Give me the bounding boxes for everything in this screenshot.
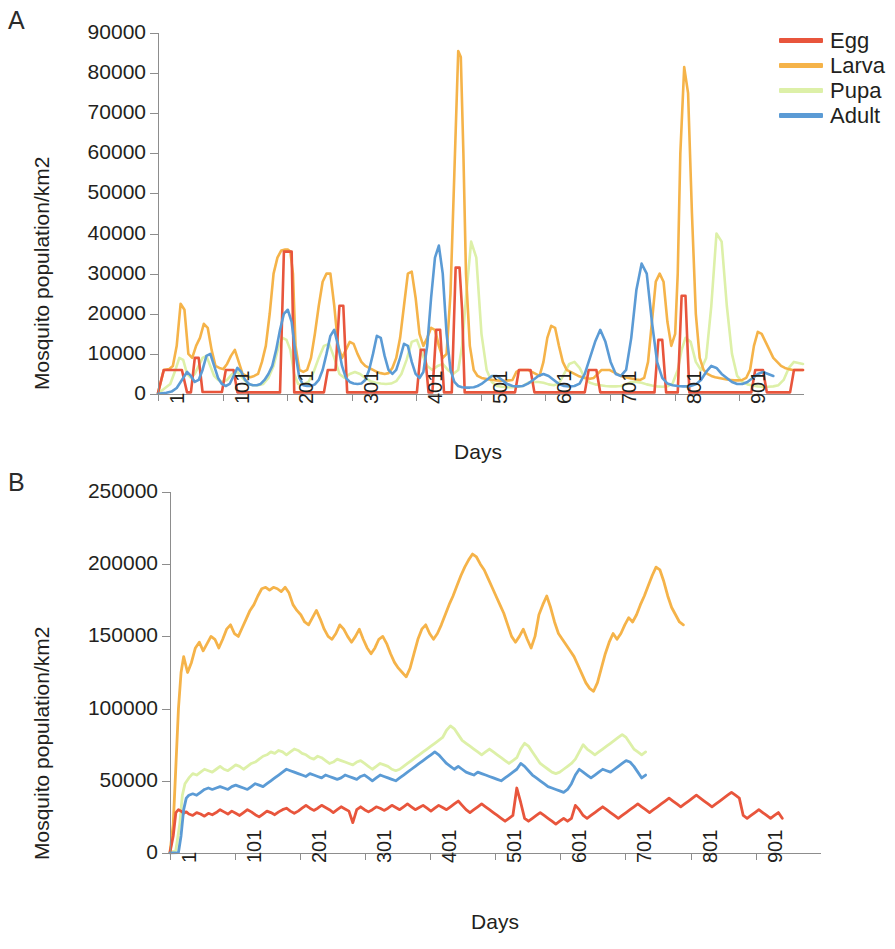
panel-b-y-axis-line	[170, 492, 171, 854]
x-tick-mark	[495, 853, 496, 860]
y-tick-label: 0	[8, 381, 146, 405]
y-tick-mark	[162, 853, 170, 854]
y-tick-mark	[150, 153, 158, 154]
y-tick-label: 200000	[20, 551, 158, 575]
x-tick-label: 701	[618, 371, 641, 404]
x-tick-mark	[170, 853, 171, 860]
x-tick-mark	[756, 853, 757, 860]
x-tick-label: 801	[683, 371, 706, 404]
x-tick-label: 1	[178, 852, 201, 863]
panel-a: A Mosquito population/km2 01000020000300…	[0, 0, 895, 474]
legend-label: Adult	[830, 103, 880, 128]
y-tick-mark	[150, 193, 158, 194]
y-tick-mark	[162, 636, 170, 637]
x-tick-mark	[481, 394, 482, 401]
y-tick-label: 50000	[20, 768, 158, 792]
y-tick-label: 80000	[8, 60, 146, 84]
y-tick-label: 60000	[8, 140, 146, 164]
panel-b-x-axis-title: Days	[375, 910, 615, 934]
legend-swatch-pupa	[779, 88, 823, 93]
x-tick-label: 1	[166, 393, 189, 404]
y-tick-mark	[150, 314, 158, 315]
y-tick-mark	[150, 274, 158, 275]
legend-swatch-larva	[779, 63, 823, 68]
x-tick-mark	[158, 394, 159, 401]
panel-b: B Mosquito population/km2 05000010000015…	[0, 460, 895, 949]
x-tick-mark	[625, 853, 626, 860]
legend-label: Larva	[830, 53, 885, 78]
y-tick-mark	[150, 354, 158, 355]
panel-b-series-layer	[170, 492, 820, 853]
x-tick-label: 601	[568, 830, 591, 863]
y-tick-mark	[150, 73, 158, 74]
y-tick-label: 20000	[8, 301, 146, 325]
y-tick-label: 40000	[8, 221, 146, 245]
y-tick-label: 10000	[8, 341, 146, 365]
x-tick-mark	[691, 853, 692, 860]
x-tick-label: 901	[764, 830, 787, 863]
panel-a-y-axis-line	[158, 33, 159, 395]
legend-swatch-adult	[779, 113, 823, 118]
x-tick-label: 601	[553, 371, 576, 404]
x-tick-label: 801	[699, 830, 722, 863]
x-tick-mark	[300, 853, 301, 860]
y-tick-label: 100000	[20, 696, 158, 720]
y-tick-label: 150000	[20, 623, 158, 647]
x-tick-mark	[416, 394, 417, 401]
panel-a-plot-area	[158, 33, 803, 394]
panel-a-series-layer	[158, 33, 803, 394]
legend-item-larva[interactable]: Larva	[779, 53, 885, 78]
y-tick-label: 30000	[8, 261, 146, 285]
x-tick-label: 201	[308, 830, 331, 863]
y-tick-label: 90000	[8, 20, 146, 44]
panel-b-plot-area	[170, 492, 820, 853]
x-tick-mark	[610, 394, 611, 401]
series-line-pupa	[158, 234, 803, 394]
x-tick-mark	[223, 394, 224, 401]
x-tick-mark	[739, 394, 740, 401]
x-tick-label: 201	[295, 371, 318, 404]
x-tick-mark	[287, 394, 288, 401]
y-tick-mark	[162, 564, 170, 565]
x-tick-mark	[430, 853, 431, 860]
x-tick-label: 401	[424, 371, 447, 404]
x-tick-label: 501	[489, 371, 512, 404]
panel-a-legend: EggLarvaPupaAdult	[779, 28, 885, 128]
panel-b-y-axis-title: Mosquito population/km2	[30, 627, 54, 860]
x-tick-mark	[560, 853, 561, 860]
x-tick-label: 501	[503, 830, 526, 863]
x-tick-mark	[365, 853, 366, 860]
legend-item-adult[interactable]: Adult	[779, 103, 885, 128]
y-tick-label: 50000	[8, 180, 146, 204]
legend-item-pupa[interactable]: Pupa	[779, 78, 885, 103]
y-tick-mark	[150, 113, 158, 114]
x-tick-label: 401	[438, 830, 461, 863]
y-tick-mark	[150, 33, 158, 34]
y-tick-label: 0	[20, 840, 158, 864]
x-tick-mark	[235, 853, 236, 860]
legend-item-egg[interactable]: Egg	[779, 28, 885, 53]
x-tick-mark	[545, 394, 546, 401]
y-tick-label: 250000	[20, 479, 158, 503]
x-tick-label: 101	[243, 830, 266, 863]
x-tick-label: 701	[633, 830, 656, 863]
y-tick-mark	[150, 234, 158, 235]
legend-label: Egg	[830, 28, 869, 53]
y-tick-mark	[150, 394, 158, 395]
x-tick-label: 301	[373, 830, 396, 863]
legend-swatch-egg	[779, 38, 823, 43]
x-tick-label: 901	[747, 371, 770, 404]
x-tick-label: 301	[360, 371, 383, 404]
y-tick-mark	[162, 709, 170, 710]
x-tick-mark	[675, 394, 676, 401]
legend-label: Pupa	[830, 78, 881, 103]
series-line-larva	[158, 51, 803, 393]
x-tick-mark	[352, 394, 353, 401]
y-tick-mark	[162, 492, 170, 493]
x-tick-label: 101	[231, 371, 254, 404]
y-tick-mark	[162, 781, 170, 782]
y-tick-label: 70000	[8, 100, 146, 124]
